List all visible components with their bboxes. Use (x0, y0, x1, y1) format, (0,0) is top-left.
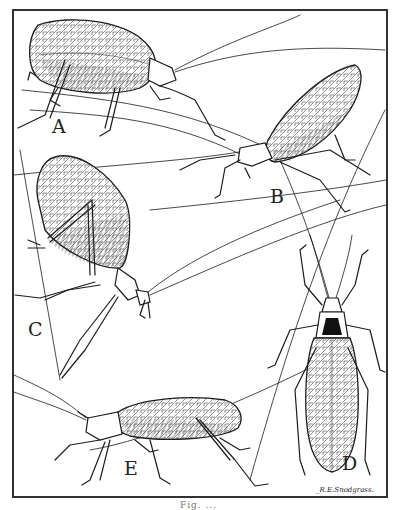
insect-e: E (14, 375, 268, 486)
panel-label-c: C (28, 318, 43, 340)
panel-label-a: A (51, 115, 66, 137)
insect-b: B (180, 65, 370, 212)
insect-d: D (268, 235, 385, 475)
insect-a: A (18, 20, 225, 140)
figure-caption: Fig. ... (0, 500, 397, 510)
panel-label-d: D (342, 452, 357, 474)
panel-label-b: B (270, 185, 284, 207)
artist-signature: _R.E.Snodgrass. (316, 486, 374, 494)
panel-label-e: E (124, 457, 138, 479)
insect-c: C (15, 156, 340, 378)
illustration-plate: A B (0, 0, 397, 510)
